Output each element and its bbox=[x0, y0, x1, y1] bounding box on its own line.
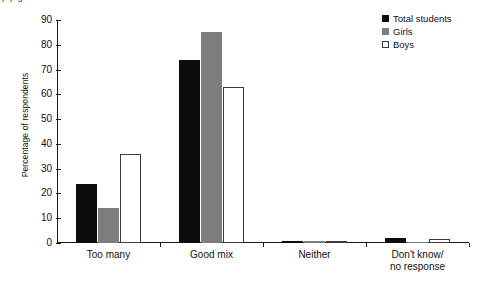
clipped-header-text: p p g bbox=[0, 0, 490, 10]
bar-girls bbox=[98, 208, 119, 243]
bar-total-students bbox=[76, 184, 97, 243]
bar-group bbox=[76, 20, 141, 243]
bar-boys bbox=[429, 239, 450, 243]
clipped-header-label: p p g bbox=[2, 0, 23, 2]
legend-swatch-total-students-icon bbox=[382, 15, 389, 22]
bar-girls bbox=[201, 32, 222, 243]
bar-girls bbox=[304, 241, 325, 243]
bar-total-students bbox=[179, 60, 200, 243]
bar-boys bbox=[120, 154, 141, 243]
x-axis-category-label: Too many bbox=[57, 249, 160, 261]
y-axis-title: Percentage of respondents bbox=[20, 25, 30, 225]
bar-total-students bbox=[282, 241, 303, 243]
legend-item-total-students: Total students bbox=[382, 12, 452, 25]
y-axis-tick-label: 0 bbox=[30, 237, 52, 248]
y-axis-tick: 20 bbox=[56, 193, 61, 194]
y-axis-tick-label: 40 bbox=[30, 138, 52, 149]
x-axis-tick bbox=[469, 243, 470, 247]
plot-area: 0102030405060708090 bbox=[57, 20, 469, 243]
legend-label-total-students: Total students bbox=[393, 12, 452, 25]
bar-chart: p p g Percentage of respondents 01020304… bbox=[0, 0, 490, 288]
bar-total-students bbox=[385, 238, 406, 243]
y-axis-tick-label: 60 bbox=[30, 88, 52, 99]
y-axis-tick: 80 bbox=[56, 45, 61, 46]
legend-swatch-boys-icon bbox=[382, 41, 389, 48]
bar-group bbox=[385, 20, 450, 243]
bar-boys bbox=[223, 87, 244, 243]
y-axis-tick: 60 bbox=[56, 94, 61, 95]
y-axis-tick: 30 bbox=[56, 169, 61, 170]
y-axis-tick: 90 bbox=[56, 20, 61, 21]
y-axis-tick-label: 50 bbox=[30, 113, 52, 124]
x-axis-tick bbox=[263, 243, 264, 247]
legend-swatch-girls-icon bbox=[382, 28, 389, 35]
y-axis-tick: 0 bbox=[56, 243, 61, 244]
y-axis-tick: 40 bbox=[56, 144, 61, 145]
y-axis-tick: 50 bbox=[56, 119, 61, 120]
y-axis-tick-label: 70 bbox=[30, 64, 52, 75]
x-axis-category-label: Neither bbox=[263, 249, 366, 261]
y-axis-tick: 70 bbox=[56, 70, 61, 71]
x-axis-category-label: Good mix bbox=[160, 249, 263, 261]
bar-group bbox=[282, 20, 347, 243]
y-axis-line bbox=[57, 20, 58, 243]
y-axis-tick-label: 90 bbox=[30, 14, 52, 25]
y-axis-tick-label: 80 bbox=[30, 39, 52, 50]
bar-boys bbox=[326, 241, 347, 243]
y-axis-tick-label: 30 bbox=[30, 163, 52, 174]
y-axis-tick: 10 bbox=[56, 218, 61, 219]
y-axis-tick-label: 10 bbox=[30, 212, 52, 223]
x-axis-tick bbox=[160, 243, 161, 247]
legend-item-boys: Boys bbox=[382, 38, 452, 51]
legend-label-girls: Girls bbox=[393, 25, 413, 38]
legend-label-boys: Boys bbox=[393, 38, 414, 51]
legend-item-girls: Girls bbox=[382, 25, 452, 38]
chart-legend: Total students Girls Boys bbox=[382, 12, 452, 51]
bar-group bbox=[179, 20, 244, 243]
y-axis-tick-label: 20 bbox=[30, 187, 52, 198]
bar-girls bbox=[407, 242, 428, 244]
x-axis-category-label: Don't know/ no response bbox=[366, 249, 469, 272]
x-axis-tick bbox=[366, 243, 367, 247]
